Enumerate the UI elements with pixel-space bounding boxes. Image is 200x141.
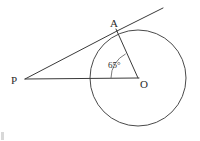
segment-oa-radius: [116, 29, 138, 78]
label-point-p: P: [11, 74, 17, 86]
segment-pa: [25, 31, 117, 79]
label-angle-aop: 65°: [108, 60, 121, 70]
geometry-figure: A P O 65°: [0, 0, 200, 141]
label-point-a: A: [110, 17, 118, 29]
tangent-ray-extension: [117, 8, 163, 31]
label-point-o: O: [140, 78, 148, 90]
segment-po: [25, 78, 139, 79]
geometry-canvas: A P O 65°: [0, 0, 200, 141]
corner-artifact: [1, 132, 4, 140]
